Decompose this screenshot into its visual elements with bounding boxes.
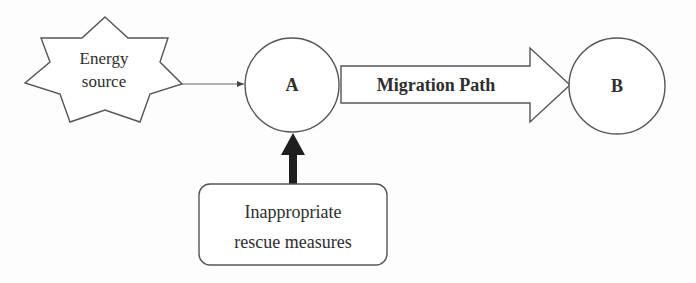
rescue-label-line2: rescue measures — [234, 232, 351, 252]
thick-arrow-shaft — [289, 152, 297, 185]
rescue-label-line1: Inappropriate — [245, 202, 342, 222]
energy-source-node: Energy source — [25, 17, 182, 122]
rounded-box — [199, 184, 387, 265]
node-a: A — [245, 38, 339, 132]
migration-path-label: Migration Path — [377, 75, 496, 95]
node-b: B — [569, 38, 665, 134]
energy-source-label-line1: Energy — [80, 49, 129, 68]
migration-path-arrow: Migration Path — [341, 48, 570, 122]
energy-source-label-line2: source — [82, 72, 126, 91]
diagram-svg: Energy source A Migration Path B Inap — [0, 0, 696, 283]
rescue-to-a-arrow — [281, 133, 305, 185]
rescue-measures-node: Inappropriate rescue measures — [199, 184, 387, 265]
star-shape — [25, 17, 182, 122]
node-b-label: B — [611, 76, 623, 96]
thick-arrow-head — [281, 133, 305, 155]
diagram-canvas: Energy source A Migration Path B Inap — [0, 0, 696, 283]
node-a-label: A — [286, 75, 299, 95]
